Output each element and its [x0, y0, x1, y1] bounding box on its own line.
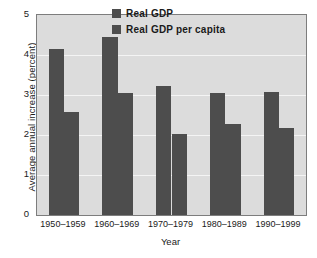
y-axis-tick-labels: 543210: [0, 0, 34, 258]
x-axis-title: Year: [36, 236, 305, 247]
bar: [264, 92, 279, 215]
legend-swatch-icon: [112, 25, 121, 34]
bar-series-layer: [37, 15, 306, 215]
x-tick-label: 1980–1989: [197, 218, 251, 230]
bar: [172, 134, 187, 215]
y-tick-label: 2: [5, 129, 29, 139]
bar: [225, 124, 240, 215]
bar: [64, 112, 79, 215]
y-tick-label: 0: [5, 209, 29, 219]
x-tick-label: 1950–1959: [36, 218, 90, 230]
y-tick-label: 4: [5, 49, 29, 59]
chart-legend: Real GDP Real GDP per capita: [112, 7, 225, 36]
legend-label: Real GDP: [126, 8, 173, 19]
bar: [118, 93, 133, 215]
bar: [156, 86, 171, 215]
y-tick-label: 3: [5, 89, 29, 99]
bar: [279, 128, 294, 215]
x-tick-label: 1970–1979: [144, 218, 198, 230]
y-tick-label: 5: [5, 9, 29, 19]
y-tick-label: 1: [5, 169, 29, 179]
legend-entry-real-gdp: Real GDP: [112, 7, 225, 20]
legend-entry-real-gdp-per-capita: Real GDP per capita: [112, 23, 225, 36]
bar: [210, 93, 225, 215]
legend-swatch-icon: [112, 9, 121, 18]
plot-area: [36, 14, 307, 216]
bar: [102, 37, 117, 215]
x-tick-label: 1990–1999: [251, 218, 305, 230]
legend-label: Real GDP per capita: [126, 24, 225, 35]
gdp-growth-bar-chart: Average annual increase (percent) 543210…: [0, 0, 317, 258]
bar: [49, 49, 64, 215]
x-axis-tick-labels: 1950–19591960–19691970–19791980–19891990…: [36, 218, 305, 232]
x-tick-label: 1960–1969: [90, 218, 144, 230]
